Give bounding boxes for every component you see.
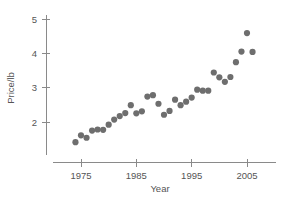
data-point — [244, 30, 250, 36]
x-tick-label: 1975 — [70, 170, 91, 181]
y-axis-title: Price/lb — [5, 72, 16, 104]
data-point — [139, 108, 145, 114]
data-point — [106, 122, 112, 128]
data-point — [133, 110, 139, 116]
data-point — [172, 97, 178, 103]
data-point — [183, 99, 189, 105]
data-point — [194, 87, 200, 93]
x-tick-label: 1995 — [181, 170, 202, 181]
data-point — [205, 88, 211, 94]
data-point — [78, 132, 84, 138]
data-point — [233, 59, 239, 65]
scatter-chart-figure: 2345 1975198519952005 Price/lb Year — [0, 0, 283, 206]
y-axis-ticks: 2345 — [32, 14, 50, 128]
data-point — [189, 94, 195, 100]
data-point — [150, 92, 156, 98]
data-point — [111, 116, 117, 122]
data-point — [72, 139, 78, 145]
x-axis-title: Year — [150, 183, 169, 194]
data-point — [216, 74, 222, 80]
data-point — [100, 127, 106, 133]
data-point — [117, 113, 123, 119]
data-point — [238, 48, 244, 54]
data-point — [211, 69, 217, 75]
y-tick-label: 2 — [32, 117, 37, 128]
data-point — [222, 79, 228, 85]
data-point — [166, 108, 172, 114]
data-point — [161, 112, 167, 118]
data-point — [155, 101, 161, 107]
x-tick-label: 2005 — [236, 170, 257, 181]
data-point — [122, 110, 128, 116]
data-points-layer — [72, 30, 255, 145]
y-tick-label: 5 — [32, 14, 37, 25]
data-point — [128, 102, 134, 108]
data-point — [144, 93, 150, 99]
data-point — [227, 74, 233, 80]
data-point — [95, 126, 101, 132]
y-tick-label: 3 — [32, 82, 37, 93]
data-point — [200, 88, 206, 94]
data-point — [89, 127, 95, 133]
chart-canvas: 2345 1975198519952005 Price/lb Year — [0, 0, 283, 206]
x-tick-label: 1985 — [126, 170, 147, 181]
data-point — [178, 102, 184, 108]
y-tick-label: 4 — [32, 48, 37, 59]
data-point — [249, 49, 255, 55]
data-point — [83, 135, 89, 141]
x-axis-ticks: 1975198519952005 — [70, 159, 257, 181]
